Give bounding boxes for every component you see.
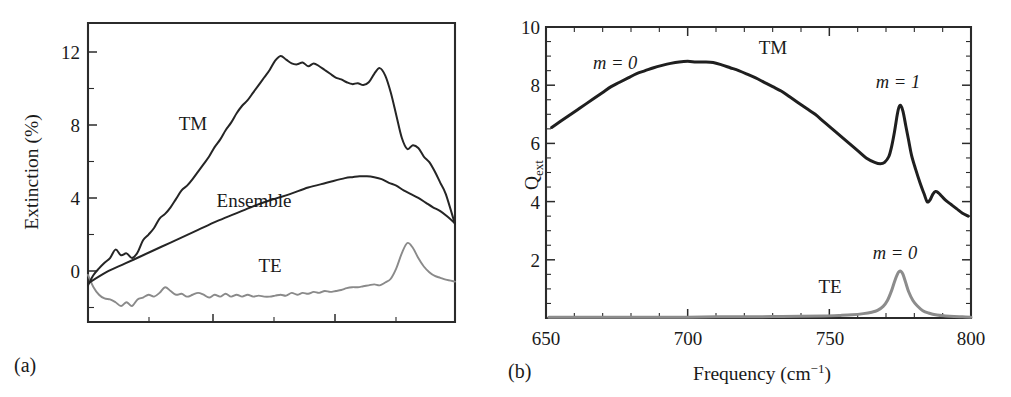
panel-b-x-axis-title: Frequency (cm−1) [693, 361, 831, 385]
panel-b-annotation-tm: TM [759, 37, 788, 58]
panel-b-annotation-m0-tm: m = 0 [593, 53, 638, 73]
panel-a-annotation-ensemble: Ensemble [217, 190, 292, 211]
panel-b-ytick-label-2: 2 [531, 250, 541, 271]
panel-a-curve-tm [88, 56, 455, 285]
panel-b-curve-te [549, 271, 971, 317]
panel-b-curves [549, 61, 971, 317]
panel-a-ytick-label-4: 4 [71, 188, 81, 209]
panel-b-xtick-label-750: 750 [816, 328, 845, 349]
panel-b-xtick-label-700: 700 [674, 328, 703, 349]
panel-a-svg: Extinction (%) 12 8 4 0 [0, 0, 500, 397]
panel-b-annotation-te: TE [818, 276, 841, 297]
panel-b-ytick-label-10: 10 [521, 17, 540, 38]
svg-text:Qext: Qext [521, 160, 546, 190]
panel-b-xtick-label-650: 650 [532, 328, 561, 349]
panel-b-annotation-m1: m = 1 [876, 72, 920, 92]
panel-a-annotation-te: TE [258, 255, 281, 276]
panel-a-tag: (a) [14, 354, 36, 377]
panel-b-xtick-label-800: 800 [957, 328, 986, 349]
panel-a-annotation-tm: TM [179, 113, 208, 134]
panel-b-y-axis-title-sub: ext [531, 160, 546, 176]
panel-b-y-axis-title: Qext [521, 160, 546, 190]
panel-b-y-axis-title-base: Q [521, 176, 542, 190]
figure-container: Extinction (%) 12 8 4 0 [0, 0, 1011, 397]
panel-b-x-axis-title-close: ) [824, 363, 831, 385]
panel-a-ytick-label-8: 8 [71, 115, 81, 136]
panel-b-ytick-label-8: 8 [531, 75, 541, 96]
panel-b-x-axis-title-sup: −1 [811, 361, 825, 376]
panel-a-ytick-label-0: 0 [71, 261, 81, 282]
panel-b-ytick-label-4: 4 [531, 192, 541, 213]
panel-b-svg: Qext 10 8 6 4 2 m = 0 TM m = 1 m = 0 [500, 0, 1011, 397]
panel-a-y-axis-title: Extinction (%) [21, 114, 43, 229]
panel-a-x-ticks [149, 314, 396, 322]
panel-b-x-axis-title-main: Frequency (cm [693, 363, 811, 385]
panel-b-annotation-m0-te: m = 0 [873, 243, 918, 263]
panel-a-ytick-label-12: 12 [61, 42, 80, 63]
panel-b-tag: (b) [508, 360, 531, 383]
panel-b-ytick-label-6: 6 [531, 133, 541, 154]
panel-b: Qext 10 8 6 4 2 m = 0 TM m = 1 m = 0 [500, 0, 1011, 397]
panel-a: Extinction (%) 12 8 4 0 [0, 0, 500, 397]
